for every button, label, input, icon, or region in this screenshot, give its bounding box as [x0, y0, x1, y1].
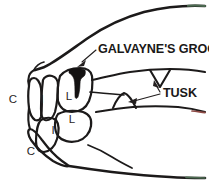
galvaynes-groove-leader-line [82, 50, 96, 62]
dentition-diagram: GALVAYNE'S GROOVE TUSK C I L L I C [0, 0, 209, 186]
label-upper-incisor: I [40, 93, 43, 105]
label-upper-canine: C [9, 93, 17, 105]
label-lower-incisor: I [51, 124, 54, 136]
upper-tusk [150, 70, 170, 87]
galvaynes-groove-arrowhead [77, 60, 86, 67]
upper-jaw-profile [35, 6, 205, 70]
label-lower-canine: C [27, 145, 35, 157]
tusk-lower-leader-line [134, 94, 160, 101]
tooth-letter-labels: C I L L I C [9, 90, 76, 157]
tusk-label: TUSK [163, 86, 197, 100]
galvaynes-groove-label: GALVAYNE'S GROOVE [98, 42, 209, 56]
diagram-canvas: GALVAYNE'S GROOVE TUSK C I L L I C [0, 0, 209, 186]
label-upper-lateral: L [66, 90, 73, 102]
tusk-lower-arrowhead [128, 98, 137, 104]
callout-galvaynes-groove: GALVAYNE'S GROOVE [77, 42, 209, 67]
label-lower-lateral: L [69, 113, 76, 125]
